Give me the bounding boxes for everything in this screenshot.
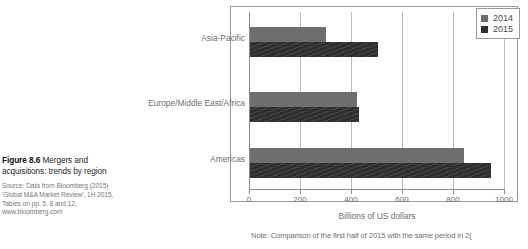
- bar-emea-2015: [250, 107, 359, 122]
- bar-asia-pacific-2015: [250, 42, 378, 57]
- legend-swatch-2014-icon: [481, 15, 488, 22]
- figure-source: Source: Data from Bloomberg (2015) 'Glob…: [2, 182, 124, 216]
- figure-caption-block: Figure 8.6 Mergers and acquisitions: tre…: [2, 155, 124, 217]
- xtick-200: [300, 189, 301, 194]
- figure-note: Note: Comparison of the first half of 20…: [251, 231, 472, 240]
- bar-asia-pacific-2014: [250, 27, 326, 42]
- legend-label-2014: 2014: [493, 13, 513, 23]
- bar-americas-2015: [250, 163, 491, 178]
- bar-americas-2014: [250, 148, 464, 163]
- legend-item-2014: 2014: [481, 13, 513, 23]
- chart-legend: 2014 2015: [476, 8, 520, 39]
- x-axis-line: [249, 189, 505, 190]
- category-label-americas: Americas: [120, 154, 245, 164]
- category-label-emea: Europe/Middle East/Africa: [120, 98, 245, 108]
- legend-swatch-2015-icon: [481, 26, 488, 33]
- y-axis-line: [249, 12, 250, 190]
- figure-panel: Figure 8.6 Mergers and acquisitions: tre…: [0, 0, 528, 249]
- legend-item-2015: 2015: [481, 24, 513, 34]
- xtick-label-0: 0: [247, 195, 251, 204]
- xtick-600: [402, 189, 403, 194]
- xtick-label-600: 600: [395, 195, 408, 204]
- xtick-label-800: 800: [446, 195, 459, 204]
- bar-emea-2014: [250, 92, 357, 107]
- category-label-asia-pacific: Asia-Pacific: [120, 33, 245, 43]
- xtick-label-400: 400: [344, 195, 357, 204]
- xtick-label-1000: 1000: [495, 195, 513, 204]
- xtick-400: [351, 189, 352, 194]
- xtick-800: [453, 189, 454, 194]
- x-axis-title: Billions of US dollars: [339, 211, 416, 221]
- legend-label-2015: 2015: [493, 24, 513, 34]
- figure-number: Figure 8.6: [2, 155, 40, 165]
- xtick-label-200: 200: [293, 195, 306, 204]
- xtick-0: [249, 189, 250, 194]
- figure-title: Figure 8.6 Mergers and acquisitions: tre…: [2, 155, 124, 177]
- xtick-1000: [504, 189, 505, 194]
